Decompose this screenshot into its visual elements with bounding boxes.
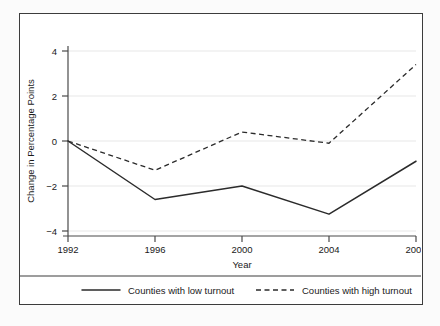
series-line-high-turnout — [68, 65, 416, 171]
chart-frame: 4 2 0 −2 −4 Change in Percentage Points … — [19, 13, 423, 305]
y-axis-title: Change in Percentage Points — [25, 79, 36, 203]
series-line-low-turnout — [68, 141, 416, 214]
gridlines — [68, 51, 416, 231]
x-tick-label-2000: 2000 — [231, 244, 252, 255]
figure-root: 4 2 0 −2 −4 Change in Percentage Points … — [0, 0, 440, 326]
x-axis-title: Year — [232, 259, 251, 270]
legend: Counties with low turnout Counties with … — [20, 276, 421, 296]
x-tick-label-1996: 1996 — [144, 244, 165, 255]
y-tick-label-4: 4 — [52, 46, 57, 57]
y-axis: 4 2 0 −2 −4 Change in Percentage Points — [25, 46, 68, 237]
y-tick-label-neg2: −2 — [46, 181, 57, 192]
line-chart: 4 2 0 −2 −4 Change in Percentage Points … — [20, 14, 421, 303]
y-tick-label-0: 0 — [52, 136, 57, 147]
series-group — [68, 65, 416, 215]
x-tick-label-1992: 1992 — [57, 244, 78, 255]
x-tick-label-2008: 2008 — [405, 244, 421, 255]
legend-label-low-turnout: Counties with low turnout — [128, 285, 234, 296]
x-tick-label-2004: 2004 — [318, 244, 339, 255]
x-axis: 1992 1996 2000 2004 2008 Year — [57, 236, 421, 270]
y-tick-label-neg4: −4 — [46, 226, 57, 237]
y-tick-label-2: 2 — [52, 91, 57, 102]
legend-label-high-turnout: Counties with high turnout — [302, 285, 412, 296]
